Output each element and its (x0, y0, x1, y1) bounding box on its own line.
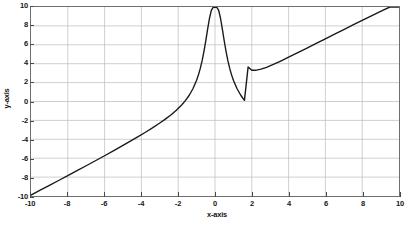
y-tick-mark (30, 25, 34, 26)
x-tick-label: 6 (314, 199, 338, 208)
x-tick-label: -6 (92, 199, 116, 208)
y-tick-label: 8 (2, 21, 28, 29)
x-tick-label: 0 (203, 199, 227, 208)
x-tick-mark (215, 192, 216, 197)
x-tick-mark (30, 192, 31, 197)
x-tick-label: 8 (351, 199, 375, 208)
x-tick-label: -2 (166, 199, 190, 208)
y-tick-label: -8 (2, 174, 28, 182)
x-tick-label: -8 (55, 199, 79, 208)
y-tick-label: -6 (2, 155, 28, 163)
y-tick-mark (30, 197, 34, 198)
x-tick-label: -10 (18, 199, 42, 208)
y-tick-mark (30, 140, 34, 141)
y-axis-title: y-axis (2, 79, 11, 119)
y-tick-mark (30, 178, 34, 179)
x-tick-mark (104, 192, 105, 197)
y-tick-mark (30, 44, 34, 45)
x-tick-mark (252, 192, 253, 197)
y-tick-label: -4 (2, 136, 28, 144)
y-tick-mark (30, 159, 34, 160)
x-tick-label: 4 (277, 199, 301, 208)
y-tick-mark (30, 121, 34, 122)
x-tick-mark (326, 192, 327, 197)
chart-figure: -10-8-6-4-20246810 -10-8-6-4-20246810 x-… (0, 0, 416, 226)
y-tick-label: 10 (2, 2, 28, 10)
plot-area (30, 6, 400, 197)
x-tick-mark (363, 192, 364, 197)
x-axis-title: x-axis (0, 210, 416, 219)
y-tick-mark (30, 63, 34, 64)
x-tick-label: -4 (129, 199, 153, 208)
y-tick-label: 4 (2, 59, 28, 67)
y-tick-mark (30, 82, 34, 83)
x-tick-label: 10 (388, 199, 412, 208)
x-tick-mark (289, 192, 290, 197)
x-tick-mark (67, 192, 68, 197)
x-tick-label: 2 (240, 199, 264, 208)
x-tick-mark (141, 192, 142, 197)
data-curve (31, 7, 399, 196)
y-tick-mark (30, 102, 34, 103)
x-tick-mark (400, 192, 401, 197)
y-tick-label: 6 (2, 40, 28, 48)
x-tick-mark (178, 192, 179, 197)
y-tick-mark (30, 6, 34, 7)
